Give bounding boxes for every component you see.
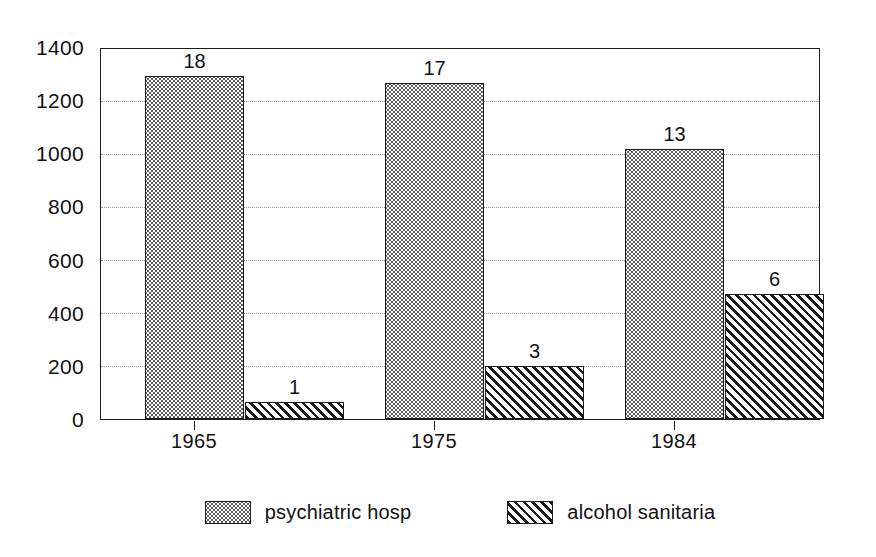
legend-label: alcohol sanitaria — [567, 501, 715, 524]
legend-swatch-dotted — [205, 501, 251, 524]
chart-legend: psychiatric hospalcohol sanitaria — [100, 492, 820, 532]
x-axis-tick-mark — [194, 421, 195, 430]
y-axis: 0200400600800100012001400 — [0, 0, 92, 557]
bar-1965-hatched: 1 — [245, 402, 344, 419]
x-axis-tick-mark — [674, 421, 675, 430]
y-axis-tick-label: 1400 — [36, 36, 84, 60]
bar-value-label: 17 — [423, 57, 445, 80]
x-axis-tick-label: 1965 — [171, 430, 217, 453]
y-axis-tick-label: 400 — [48, 302, 84, 326]
y-axis-tick-label: 200 — [48, 355, 84, 379]
x-axis-tick-label: 1975 — [411, 430, 457, 453]
bar-value-label: 18 — [183, 50, 205, 73]
legend-item[interactable]: psychiatric hosp — [205, 501, 412, 524]
bar-value-label: 6 — [769, 268, 780, 291]
bar-1984-hatched: 6 — [725, 294, 824, 419]
legend-swatch-hatched — [507, 501, 553, 524]
y-axis-tick-label: 600 — [48, 249, 84, 273]
x-axis: 196519751984 — [100, 430, 820, 460]
x-axis-tick-mark — [434, 421, 435, 430]
bar-1975-hatched: 3 — [485, 366, 584, 419]
bar-1965-dotted: 18 — [145, 76, 244, 419]
y-axis-tick-label: 0 — [72, 408, 84, 432]
y-axis-tick-label: 1000 — [36, 142, 84, 166]
y-axis-tick-label: 1200 — [36, 89, 84, 113]
bar-1984-dotted: 13 — [625, 149, 724, 419]
legend-label: psychiatric hosp — [265, 501, 412, 524]
bar-value-label: 1 — [289, 376, 300, 399]
legend-item[interactable]: alcohol sanitaria — [507, 501, 715, 524]
plot-area: 181173136 — [100, 48, 820, 420]
y-axis-tick-label: 800 — [48, 195, 84, 219]
bar-value-label: 3 — [529, 340, 540, 363]
bar-value-label: 13 — [663, 123, 685, 146]
x-axis-tick-label: 1984 — [651, 430, 697, 453]
bar-1975-dotted: 17 — [385, 83, 484, 419]
bar-chart: 0200400600800100012001400 181173136 1965… — [0, 0, 876, 557]
